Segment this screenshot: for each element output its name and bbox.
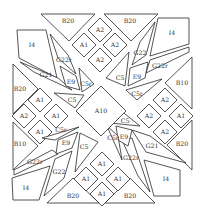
a-left-3-label: A1 xyxy=(51,112,60,119)
g22-bottom-left-label: G22 xyxy=(53,168,66,175)
quilt-block-svg: B20 B20 A2 A1 A2 A2 I4 G22r G21 E9 C5r C… xyxy=(0,0,205,217)
g22-top-right-label: G22 xyxy=(134,49,147,56)
e9-bottom-left-label: E9 xyxy=(62,139,71,146)
i4-bottom-right-label: I4 xyxy=(163,175,169,182)
c5-top-right-label: C5 xyxy=(116,74,125,81)
a-right-3-label: A1 xyxy=(176,112,185,119)
a-top-2-label: A1 xyxy=(79,41,88,48)
g21-bottom-right-label: G21 xyxy=(146,142,159,149)
a-bottom-1-label: A1 xyxy=(97,160,106,167)
b20-top-right-label: B20 xyxy=(124,17,136,24)
i4-bottom-left-label: I4 xyxy=(23,184,29,191)
b10-right-top-label: B10 xyxy=(176,79,188,86)
g22r-top-right-label: G22r xyxy=(152,62,168,69)
a-left-2-label: A2 xyxy=(19,112,28,119)
b20-top-left-label: B20 xyxy=(62,17,74,24)
quilt-block-diagram: B20 B20 A2 A1 A2 A2 I4 G22r G21 E9 C5r C… xyxy=(0,0,205,217)
a-top-4-label: A2 xyxy=(95,56,104,63)
b20-bottom-right-label: B20 xyxy=(124,192,136,199)
g22r-top-left-label: G22r xyxy=(56,56,72,63)
a-left-4-label: A1 xyxy=(35,128,44,135)
a-right-4-label: A2 xyxy=(160,128,169,135)
g22r-bottom-left-label: G22r xyxy=(27,158,43,165)
i4-top-left-label: I4 xyxy=(29,41,35,48)
b20-left-top-label: B20 xyxy=(14,85,26,92)
a-right-1-label: A2 xyxy=(160,96,169,103)
a-bottom-2-label: A1 xyxy=(81,175,90,182)
a-top-1-label: A2 xyxy=(95,26,104,33)
a10-center-label: A10 xyxy=(94,107,107,114)
a-bottom-3-label: A1 xyxy=(113,175,122,182)
g22r-bottom-right-label: G22r xyxy=(123,154,139,161)
c5-bottom-left-label: C5 xyxy=(80,143,89,150)
c5r-top-left-label: C5r xyxy=(80,80,92,87)
g21-top-left-label: G21 xyxy=(40,71,53,78)
b20-right-bottom-label: B20 xyxy=(176,140,188,147)
a-left-1-label: A1 xyxy=(35,96,44,103)
c5r-top-right-label: C5r xyxy=(131,90,143,97)
c5r-bottom-left-label: C5r xyxy=(55,126,67,133)
e9-bottom-right-label: E9 xyxy=(120,133,129,140)
c5-bottom-right-label: C5 xyxy=(121,117,130,124)
a-bottom-4-label: A1 xyxy=(97,190,106,197)
c5-top-left-label: C5 xyxy=(68,96,77,103)
e9-top-right-label: E9 xyxy=(133,73,142,80)
b10-left-bottom-label: B10 xyxy=(14,140,26,147)
a-right-2-label: A2 xyxy=(144,112,153,119)
c5r-bottom-right-label: C5r xyxy=(107,134,119,141)
b20-bottom-left-label: B20 xyxy=(67,192,79,199)
i4-top-right-label: I4 xyxy=(169,29,175,36)
e9-top-left-label: E9 xyxy=(67,78,76,85)
a-top-3-label: A2 xyxy=(110,41,119,48)
